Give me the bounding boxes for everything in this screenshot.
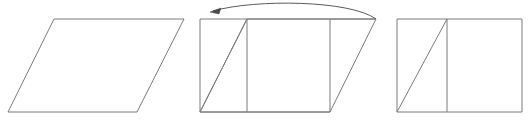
translation-arrow bbox=[210, 3, 376, 19]
panel-2-parallelogram-with-cut bbox=[200, 3, 376, 112]
parallelogram-outline bbox=[8, 19, 184, 112]
parallelogram-outline bbox=[200, 19, 376, 112]
figure-canvas bbox=[0, 0, 530, 124]
rectangle-outline bbox=[397, 19, 522, 112]
translation-arrow-head-icon bbox=[210, 8, 221, 14]
panel-3-rectangle-result bbox=[397, 19, 522, 112]
translation-arrow-curve bbox=[213, 3, 376, 19]
geometry-figure: Parallelogram cut-and-rearrange into a r… bbox=[0, 0, 530, 124]
panel-1-parallelogram bbox=[8, 19, 184, 112]
